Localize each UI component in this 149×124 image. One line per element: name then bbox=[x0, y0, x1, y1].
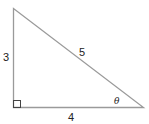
horizontal-leg-label: 4 bbox=[68, 111, 74, 123]
hypotenuse-label: 5 bbox=[79, 46, 85, 58]
angle-theta-label: θ bbox=[114, 96, 120, 106]
right-triangle-diagram: 3 5 4 θ bbox=[0, 0, 149, 124]
triangle-shape bbox=[14, 9, 144, 108]
vertical-leg-label: 3 bbox=[3, 51, 9, 63]
right-angle-marker bbox=[14, 101, 21, 108]
